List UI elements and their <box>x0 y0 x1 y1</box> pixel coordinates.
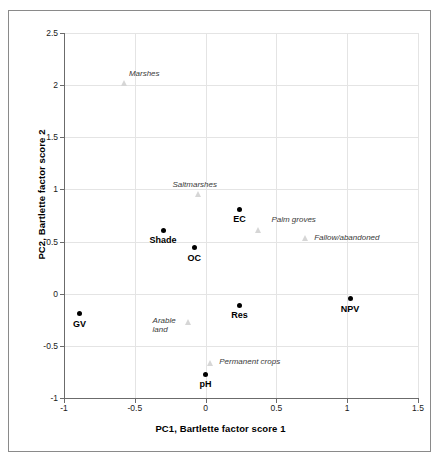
data-point-marker[interactable] <box>237 303 242 308</box>
y-tick <box>60 33 65 34</box>
data-point-marker[interactable] <box>203 372 208 377</box>
x-tick-label: 1 <box>327 403 367 413</box>
data-point-marker[interactable] <box>77 311 82 316</box>
y-tick <box>60 242 65 243</box>
data-point-marker[interactable] <box>161 228 166 233</box>
x-axis-line <box>64 398 419 399</box>
plot-area: -1-0.500.511.5-1-0.500.511.522.5 ShadeOC… <box>64 33 418 398</box>
data-point-label: GV <box>73 319 86 329</box>
y-tick-label: -0.5 <box>18 341 58 351</box>
x-tick-label: 0.5 <box>256 403 296 413</box>
gridline-horizontal <box>64 137 418 138</box>
data-point-label: Arable land <box>153 316 187 335</box>
data-point-marker[interactable] <box>192 245 197 250</box>
y-tick <box>60 398 65 399</box>
x-axis-title: PC1, Bartlette factor score 1 <box>9 423 432 434</box>
data-point-label: Marshes <box>129 69 160 78</box>
data-point-marker[interactable] <box>195 191 201 197</box>
y-tick-label: 2.5 <box>18 28 58 38</box>
data-point-label: NPV <box>341 304 360 314</box>
y-tick-label: 2 <box>18 80 58 90</box>
data-point-label: Shade <box>150 235 177 245</box>
gridline-vertical <box>206 33 207 398</box>
data-point-label: Saltmarshes <box>173 180 217 189</box>
data-point-marker[interactable] <box>208 360 214 366</box>
gridline-vertical <box>347 33 348 398</box>
y-tick-label: -1 <box>18 393 58 403</box>
data-point-label: pH <box>200 379 212 389</box>
x-tick-label: -0.5 <box>115 403 155 413</box>
y-tick <box>60 346 65 347</box>
y-tick-label: 1 <box>18 184 58 194</box>
y-tick-label: 1.5 <box>18 132 58 142</box>
y-tick <box>60 189 65 190</box>
gridline-vertical <box>418 33 419 398</box>
gridline-vertical <box>135 33 136 398</box>
gridline-horizontal <box>64 294 418 295</box>
data-point-marker[interactable] <box>303 235 309 241</box>
y-tick <box>60 294 65 295</box>
x-tick-label: -1 <box>44 403 84 413</box>
y-axis-title: PC2, Bartlette factor score 2 <box>36 85 47 305</box>
y-tick <box>60 137 65 138</box>
data-point-marker[interactable] <box>121 80 127 86</box>
data-point-label: OC <box>188 253 202 263</box>
data-point-marker[interactable] <box>237 207 242 212</box>
y-tick-label: 0 <box>18 289 58 299</box>
data-point-marker[interactable] <box>348 296 353 301</box>
data-point-label: Palm groves <box>271 215 315 224</box>
data-point-label: Res <box>231 310 248 320</box>
gridline-horizontal <box>64 346 418 347</box>
y-tick-label: 0.5 <box>18 237 58 247</box>
gridline-horizontal <box>64 189 418 190</box>
data-point-label: Fallow/abandoned <box>314 233 379 242</box>
gridline-horizontal <box>64 33 418 34</box>
y-tick <box>60 85 65 86</box>
chart-frame: PC2, Bartlette factor score 2 PC1, Bartl… <box>8 10 431 452</box>
data-point-marker[interactable] <box>256 227 262 233</box>
y-axis-line <box>64 33 65 399</box>
x-tick-label: 0 <box>186 403 226 413</box>
gridline-horizontal <box>64 85 418 86</box>
x-tick-label: 1.5 <box>398 403 438 413</box>
data-point-label: EC <box>233 214 246 224</box>
data-point-label: Permanent crops <box>219 357 280 366</box>
